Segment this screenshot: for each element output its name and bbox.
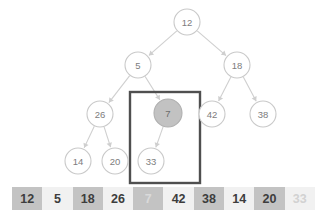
array-cell: 38 xyxy=(194,187,224,210)
tree-node-26: 26 xyxy=(87,101,113,127)
array-cell: 14 xyxy=(224,187,254,210)
tree-node-7: 7 xyxy=(154,99,182,127)
tree-node-5: 5 xyxy=(125,52,151,78)
node-label: 5 xyxy=(135,60,140,71)
tree-edge xyxy=(149,31,177,56)
tree-node-42: 42 xyxy=(199,101,225,127)
node-label: 7 xyxy=(165,108,170,119)
diagram-canvas: 125182674238142033 125182674238142033 xyxy=(0,0,326,218)
tree-node-20: 20 xyxy=(102,148,128,174)
binary-tree-graphic: 125182674238142033 xyxy=(0,0,326,186)
tree-node-18: 18 xyxy=(224,52,250,78)
node-label: 38 xyxy=(258,109,269,120)
node-label: 26 xyxy=(95,109,106,120)
tree-node-12: 12 xyxy=(174,9,200,35)
array-cell: 18 xyxy=(73,187,103,210)
node-label: 33 xyxy=(146,156,157,167)
node-label: 14 xyxy=(73,156,84,167)
array-representation: 125182674238142033 xyxy=(12,187,315,210)
array-cell: 7 xyxy=(133,187,163,210)
tree-edge xyxy=(197,31,226,56)
array-cell: 5 xyxy=(42,187,72,210)
node-label: 20 xyxy=(110,156,121,167)
array-cell: 42 xyxy=(163,187,193,210)
array-cell: 26 xyxy=(103,187,133,210)
tree-node-33: 33 xyxy=(138,148,164,174)
tree-node-14: 14 xyxy=(65,148,91,174)
tree-edges xyxy=(83,31,256,148)
tree-node-38: 38 xyxy=(250,101,276,127)
array-cell: 20 xyxy=(254,187,284,210)
edge-arrowhead-icon xyxy=(109,97,114,102)
array-cell: 33 xyxy=(285,187,315,210)
node-label: 18 xyxy=(232,60,243,71)
tree-edge xyxy=(109,76,130,103)
node-label: 12 xyxy=(182,17,193,28)
array-cell: 12 xyxy=(12,187,42,210)
node-label: 42 xyxy=(207,109,218,120)
